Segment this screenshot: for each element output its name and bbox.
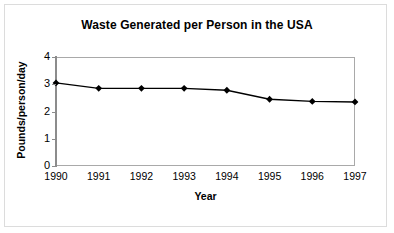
x-axis-title: Year xyxy=(56,190,355,202)
data-point-marker xyxy=(352,99,359,106)
x-tick-label: 1991 xyxy=(77,171,121,182)
x-tick-label: 1995 xyxy=(248,171,292,182)
y-tick-label: 2 xyxy=(36,106,50,117)
x-tick-label: 1997 xyxy=(333,171,377,182)
y-tick-mark xyxy=(52,112,56,113)
chart-figure: Waste Generated per Person in the USA 01… xyxy=(0,0,394,233)
y-tick-mark xyxy=(52,57,56,58)
y-tick-mark xyxy=(52,166,56,167)
chart-title: Waste Generated per Person in the USA xyxy=(0,18,394,32)
y-tick-label: 3 xyxy=(36,78,50,89)
data-point-marker xyxy=(309,98,316,105)
x-tick-label: 1994 xyxy=(205,171,249,182)
y-tick-mark xyxy=(52,84,56,85)
data-point-marker xyxy=(53,79,60,86)
y-tick-label: 1 xyxy=(36,133,50,144)
data-point-marker xyxy=(266,96,273,103)
y-tick-label: 4 xyxy=(36,51,50,62)
series-markers xyxy=(53,79,359,105)
x-tick-label: 1993 xyxy=(162,171,206,182)
data-point-marker xyxy=(181,85,188,92)
x-tick-label: 1990 xyxy=(34,171,78,182)
series-layer xyxy=(56,57,355,166)
x-tick-label: 1996 xyxy=(290,171,334,182)
series-line xyxy=(56,83,355,102)
data-point-marker xyxy=(138,85,145,92)
data-point-marker xyxy=(223,87,230,94)
y-tick-mark xyxy=(52,139,56,140)
data-point-marker xyxy=(95,85,102,92)
y-axis-title: Pounds/person/day xyxy=(15,50,27,170)
x-tick-label: 1992 xyxy=(119,171,163,182)
